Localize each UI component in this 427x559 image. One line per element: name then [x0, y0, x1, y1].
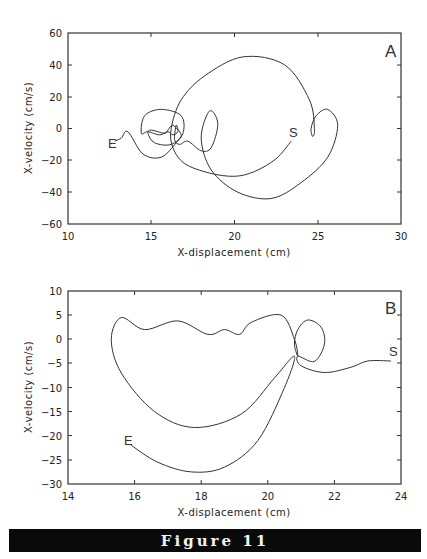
svg-text:−60: −60	[41, 219, 62, 230]
chart-a-trajectory	[115, 56, 338, 199]
svg-text:−30: −30	[41, 479, 62, 490]
svg-text:24: 24	[395, 491, 408, 502]
chart-a-x-tick-labels: 10 15 20 25 30	[62, 231, 408, 242]
chart-b-y-ticks	[68, 315, 401, 460]
svg-text:60: 60	[49, 28, 62, 39]
figure-canvas: 10 15 20 25 30 60 40 20 0 −20 −40 −60 X-…	[0, 0, 427, 559]
svg-text:5: 5	[56, 310, 62, 321]
svg-text:−20: −20	[41, 431, 62, 442]
svg-text:18: 18	[195, 491, 208, 502]
svg-text:20: 20	[261, 491, 274, 502]
chart-a-y-axis-label: X-velocity (cm/s)	[23, 82, 34, 174]
chart-b-y-axis-label: X-velocity (cm/s)	[23, 341, 34, 433]
svg-text:0: 0	[56, 334, 62, 345]
figure-caption: Figure 11	[161, 532, 269, 550]
chart-b-panel-label: B	[385, 299, 396, 318]
svg-text:22: 22	[328, 491, 341, 502]
chart-b: 14 16 18 20 22 24 10 5 0 −5 −10 −15 −20 …	[23, 286, 407, 518]
chart-a-end-marker: E	[108, 136, 117, 151]
chart-b-trajectory	[111, 314, 391, 472]
svg-text:−15: −15	[41, 407, 62, 418]
svg-text:20: 20	[228, 231, 241, 242]
svg-text:14: 14	[62, 491, 75, 502]
figure-caption-banner: Figure 11	[9, 529, 421, 552]
chart-a-x-axis-label: X-displacement (cm)	[177, 247, 290, 258]
svg-text:16: 16	[128, 491, 141, 502]
svg-text:10: 10	[49, 286, 62, 297]
chart-a-panel-label: A	[385, 42, 397, 61]
chart-b-x-tick-labels: 14 16 18 20 22 24	[62, 491, 408, 502]
svg-text:−20: −20	[41, 155, 62, 166]
chart-b-x-axis-label: X-displacement (cm)	[177, 507, 290, 518]
chart-a-start-marker: S	[289, 125, 298, 140]
svg-text:15: 15	[145, 231, 158, 242]
svg-text:30: 30	[395, 231, 408, 242]
chart-b-x-ticks	[135, 291, 335, 484]
svg-text:−10: −10	[41, 383, 62, 394]
svg-text:−5: −5	[47, 358, 62, 369]
chart-a-frame	[68, 33, 401, 224]
svg-text:10: 10	[62, 231, 75, 242]
svg-text:−40: −40	[41, 187, 62, 198]
svg-text:0: 0	[56, 123, 62, 134]
svg-text:25: 25	[312, 231, 325, 242]
chart-b-y-tick-labels: 10 5 0 −5 −10 −15 −20 −25 −30	[41, 286, 62, 490]
chart-a: 10 15 20 25 30 60 40 20 0 −20 −40 −60 X-…	[23, 28, 407, 258]
svg-text:40: 40	[49, 60, 62, 71]
chart-b-start-marker: S	[389, 344, 398, 359]
chart-a-y-tick-labels: 60 40 20 0 −20 −40 −60	[41, 28, 62, 230]
svg-text:−25: −25	[41, 455, 62, 466]
svg-text:20: 20	[49, 92, 62, 103]
chart-a-y-ticks	[68, 65, 401, 192]
